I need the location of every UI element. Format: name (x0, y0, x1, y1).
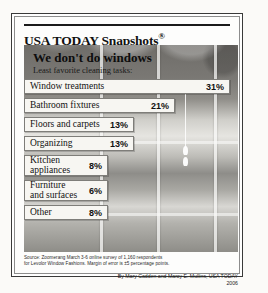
bar-row: Organizing13% (24, 136, 238, 151)
bar-category-label: Bathroom fixtures (25, 100, 148, 111)
headline-subtitle: Least favorite cleaning tasks: (33, 65, 152, 76)
headline-title: We don't do windows (33, 50, 152, 65)
bar-category-label: Floors and carpets (25, 119, 107, 130)
bar-category-label: Kitchen appliances (25, 156, 86, 175)
bar: Other8% (24, 205, 108, 220)
bar-chart: Window treatments31%Bathroom fixtures21%… (24, 79, 238, 224)
bar-category-label: Window treatments (25, 81, 203, 92)
bar-row: Other8% (24, 205, 238, 220)
bar: Bathroom fixtures21% (24, 98, 175, 113)
bar-value-label: 31% (203, 82, 229, 92)
byline-year: 2006 (24, 280, 238, 287)
chart-panel: We don't do windows Least favorite clean… (24, 45, 238, 252)
bar: Kitchen appliances8% (24, 155, 108, 176)
masthead: USA TODAY Snapshots® (24, 24, 230, 48)
snapshot-frame: USA TODAY Snapshots® We don't do windows… (11, 13, 243, 277)
bar: Organizing13% (24, 136, 134, 151)
bar-value-label: 13% (107, 120, 133, 130)
bar-row: Bathroom fixtures21% (24, 98, 238, 113)
bar-value-label: 21% (148, 101, 174, 111)
bar-value-label: 6% (86, 186, 107, 196)
bar-row: Furniture and surfaces6% (24, 180, 238, 201)
bar-category-label: Furniture and surfaces (25, 181, 86, 200)
masthead-rule (24, 24, 230, 26)
registered-mark-icon: ® (158, 31, 165, 41)
headline-block: We don't do windows Least favorite clean… (33, 50, 152, 76)
byline: By Mary Cadden and Marcy E. Mullins, USA… (24, 273, 238, 287)
byline-authors: By Mary Cadden and Marcy E. Mullins, USA… (24, 273, 238, 280)
bar-row: Floors and carpets13% (24, 117, 238, 132)
bar-value-label: 13% (107, 139, 133, 149)
bar-value-label: 8% (86, 208, 107, 218)
bar: Window treatments31% (24, 79, 230, 94)
bar: Furniture and surfaces6% (24, 180, 108, 201)
source-line-2: for Levolor Window Fashions. Margin of e… (24, 261, 238, 267)
bar: Floors and carpets13% (24, 117, 134, 132)
bar-row: Window treatments31% (24, 79, 238, 94)
bar-category-label: Other (25, 207, 86, 218)
bar-category-label: Organizing (25, 138, 107, 149)
snapshot-frame-inner: USA TODAY Snapshots® We don't do windows… (14, 16, 240, 274)
bar-value-label: 8% (86, 161, 107, 171)
bar-row: Kitchen appliances8% (24, 155, 238, 176)
source-note: Source: Zoomerang March 3-6 online surve… (24, 255, 238, 266)
